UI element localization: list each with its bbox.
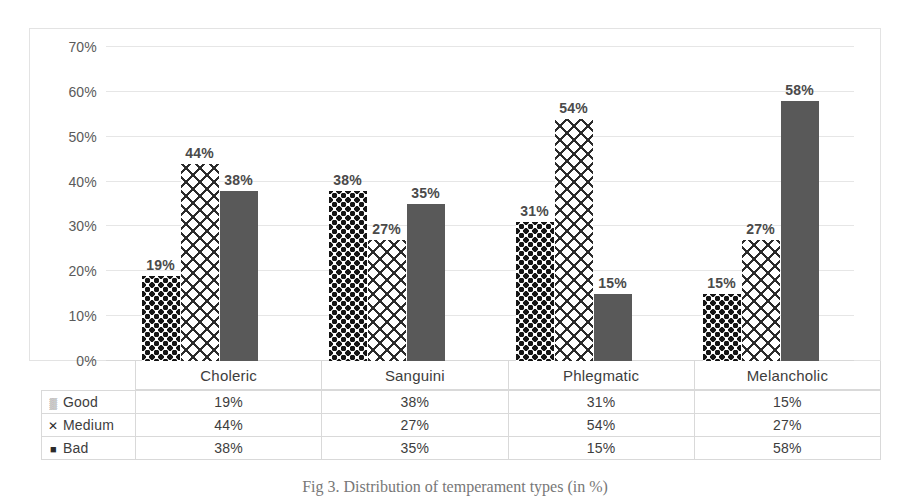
cell-good-phlegmatic: 31%	[508, 391, 694, 414]
cell-bad-phlegmatic: 15%	[508, 437, 694, 460]
y-axis-tick-label: 0%	[76, 353, 97, 369]
bar-value-label: 38%	[333, 172, 362, 188]
bar-fill	[407, 204, 445, 361]
y-axis-tick-label: 10%	[68, 308, 97, 324]
cell-bad-sanguini: 35%	[322, 437, 508, 460]
table-row: ▒Good 19% 38% 31% 15%	[42, 391, 881, 414]
series-label-good: Good	[63, 394, 98, 410]
series-label-bad: Bad	[63, 440, 89, 456]
bar-group-choleric: 19%44%38%	[106, 47, 293, 361]
bar-value-label: 44%	[185, 145, 214, 161]
y-axis-tick-label: 50%	[68, 129, 97, 145]
cell-medium-phlegmatic: 54%	[508, 414, 694, 437]
bar-value-label: 58%	[785, 82, 814, 98]
bar-value-label: 54%	[559, 100, 588, 116]
cell-medium-sanguini: 27%	[322, 414, 508, 437]
table-row: ■Bad 38% 35% 15% 58%	[42, 437, 881, 460]
category-axis-row: Choleric Sanguini Phlegmatic Melancholic	[135, 361, 881, 390]
figure-caption: Fig 3. Distribution of temperament types…	[0, 478, 910, 496]
bar-fill	[142, 276, 180, 361]
category-label-3: Melancholic	[695, 361, 881, 389]
y-axis-tick-label: 70%	[68, 39, 97, 55]
category-label-2: Phlegmatic	[509, 361, 695, 389]
series-label-medium: Medium	[63, 417, 114, 433]
y-axis-tick-label: 60%	[68, 84, 97, 100]
bar-group-sanguini: 38%27%35%	[293, 47, 480, 361]
bar-fill	[742, 240, 780, 361]
legend-row-good: ▒Good	[42, 391, 136, 414]
bar-value-label: 19%	[146, 257, 175, 273]
bar-fill	[220, 191, 258, 361]
cell-medium-choleric: 44%	[136, 414, 322, 437]
bar-value-label: 27%	[746, 221, 775, 237]
bar-fill	[781, 101, 819, 361]
cell-bad-melancholic: 58%	[694, 437, 880, 460]
cell-good-choleric: 19%	[136, 391, 322, 414]
legend-row-bad: ■Bad	[42, 437, 136, 460]
solid-square-icon: ■	[48, 444, 59, 455]
bar-group-melancholic: 15%27%58%	[667, 47, 854, 361]
legend-row-medium: ✕Medium	[42, 414, 136, 437]
data-table: ▒Good 19% 38% 31% 15% ✕Medium 44% 27% 54…	[41, 390, 881, 460]
bar-value-label: 15%	[707, 275, 736, 291]
bar-value-label: 15%	[598, 275, 627, 291]
cell-good-sanguini: 38%	[322, 391, 508, 414]
bar-fill	[181, 164, 219, 361]
table-row: ✕Medium 44% 27% 54% 27%	[42, 414, 881, 437]
bar-value-label: 35%	[411, 185, 440, 201]
y-axis-tick-label: 30%	[68, 218, 97, 234]
bar-fill	[329, 191, 367, 361]
cell-bad-choleric: 38%	[136, 437, 322, 460]
y-axis-tick-label: 20%	[68, 263, 97, 279]
bar-value-label: 38%	[224, 172, 253, 188]
bar-group-phlegmatic: 31%54%15%	[480, 47, 667, 361]
bar-fill	[555, 119, 593, 361]
bar-fill	[516, 222, 554, 361]
bar-fill	[594, 294, 632, 361]
category-label-0: Choleric	[136, 361, 322, 389]
x-cross-icon: ✕	[48, 420, 59, 432]
plot-area: 0%10%20%30%40%50%60%70%19%44%38%38%27%35…	[106, 47, 854, 361]
cell-good-melancholic: 15%	[694, 391, 880, 414]
y-axis-tick-label: 40%	[68, 174, 97, 190]
dotted-square-icon: ▒	[48, 398, 59, 409]
bar-fill	[703, 294, 741, 361]
bar-value-label: 31%	[520, 203, 549, 219]
cell-medium-melancholic: 27%	[694, 414, 880, 437]
bar-value-label: 27%	[372, 221, 401, 237]
bar-fill	[368, 240, 406, 361]
category-label-1: Sanguini	[322, 361, 508, 389]
